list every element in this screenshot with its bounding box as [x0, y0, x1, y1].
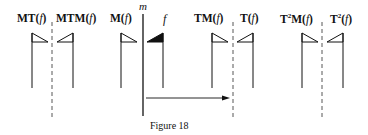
label-original-f: f	[163, 12, 166, 27]
translation-arrow-icon	[146, 96, 230, 101]
flag-t2m-icon	[302, 33, 318, 88]
label-tm: TM(f)	[194, 12, 223, 24]
label-t2: T2(f)	[330, 12, 352, 25]
flag-t2-icon	[327, 33, 343, 88]
label-t2m: T2M(f)	[280, 12, 313, 25]
mirror-line-label: m	[139, 0, 147, 12]
flag-t-icon	[237, 33, 253, 88]
flag-mt-icon	[32, 33, 48, 88]
label-mtm: MTM(f)	[56, 12, 96, 24]
flag-mtm-icon	[57, 33, 73, 88]
label-m: M(f)	[110, 12, 132, 24]
flag-tm-icon	[212, 33, 228, 88]
label-mt: MT(f)	[17, 12, 46, 24]
label-t: T(f)	[240, 12, 259, 24]
flag-original-f-icon	[147, 33, 163, 88]
figure-caption: Figure 18	[150, 120, 189, 131]
flag-m-icon	[121, 33, 137, 88]
